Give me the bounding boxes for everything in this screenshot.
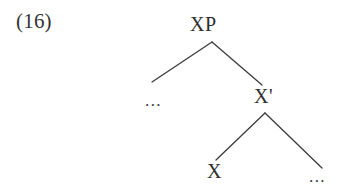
tree-branch-lines (0, 0, 355, 190)
tree-node-specifier-ellipsis: ... (145, 92, 162, 109)
tree-node-complement-ellipsis: ... (309, 168, 326, 185)
tree-node-x-head: X (207, 161, 221, 181)
branch-xp-to-xbar (212, 42, 262, 85)
tree-node-x-bar: X' (254, 86, 273, 106)
branch-xbar-to-head (216, 113, 265, 160)
branch-xbar-to-complement (265, 113, 322, 168)
syntax-tree-figure: (16) XP ... X' X ... (0, 0, 355, 190)
branch-xp-to-specifier (152, 42, 212, 82)
tree-node-xp: XP (190, 14, 217, 34)
